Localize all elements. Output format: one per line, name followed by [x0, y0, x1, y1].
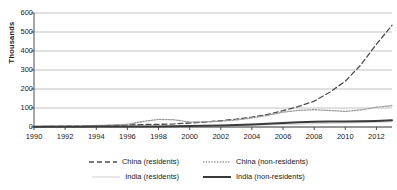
- x-axis-tick-label: 1996: [114, 133, 140, 141]
- x-axis-tick-label: 1998: [146, 133, 172, 141]
- x-axis-tick-label: 2002: [208, 133, 234, 141]
- x-axis-tick-label: 2012: [363, 133, 389, 141]
- legend-row: India (residents)India (non-residents): [0, 169, 397, 184]
- x-axis-tick-label: 2000: [177, 133, 203, 141]
- legend-line-swatch: [92, 172, 120, 182]
- legend-label: China (residents): [122, 157, 179, 166]
- x-axis-tick-label: 1990: [21, 133, 47, 141]
- legend-item-china-residents[interactable]: China (residents): [89, 157, 179, 167]
- legend-label: China (non-residents): [236, 157, 308, 166]
- legend-item-china-non-residents[interactable]: China (non-residents): [203, 157, 308, 167]
- legend-label: India (non-residents): [236, 172, 305, 181]
- x-axis-tick-label: 2010: [332, 133, 358, 141]
- legend-line-swatch: [89, 157, 117, 167]
- line-chart: Thousands 0100200300400500600 1990199219…: [0, 0, 397, 190]
- legend-item-india-residents[interactable]: India (residents): [92, 172, 179, 182]
- legend-line-swatch: [203, 172, 231, 182]
- x-axis-tick-label: 2004: [239, 133, 265, 141]
- legend-line-swatch: [203, 157, 231, 167]
- x-axis-tick-label: 2008: [301, 133, 327, 141]
- x-axis-tick-label: 1992: [52, 133, 78, 141]
- x-axis-tick-label: 1994: [83, 133, 109, 141]
- chart-legend: China (residents)China (non-residents)In…: [0, 154, 397, 188]
- legend-row: China (residents)China (non-residents): [0, 154, 397, 169]
- x-axis-tick-label: 2006: [270, 133, 296, 141]
- legend-label: India (residents): [125, 172, 179, 181]
- legend-item-india-non-residents[interactable]: India (non-residents): [203, 172, 305, 182]
